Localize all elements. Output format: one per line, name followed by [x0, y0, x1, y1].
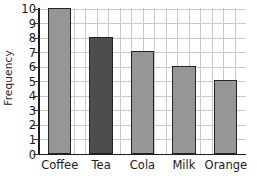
y-axis-tick-mark	[33, 38, 39, 39]
bar	[172, 66, 196, 154]
x-axis-tick-label: Coffee	[39, 157, 80, 173]
y-axis-tick-mark	[33, 9, 39, 10]
bar	[131, 51, 155, 154]
bar	[89, 37, 113, 154]
bars-layer	[39, 8, 246, 154]
x-axis-line	[38, 154, 246, 156]
plot-area	[39, 8, 246, 154]
x-axis-tick-labels: CoffeeTeaColaMilkOrange	[39, 157, 246, 177]
y-axis-tick-mark	[33, 125, 39, 126]
bar-fill	[49, 9, 71, 154]
x-axis-tick-label: Milk	[163, 157, 204, 173]
y-axis-tick-mark	[33, 154, 39, 155]
bar	[48, 8, 72, 154]
y-axis-tick-labels: 012345678910	[14, 12, 36, 154]
bar-fill	[215, 81, 237, 153]
y-axis-tick-mark	[33, 81, 39, 82]
bar-chart: Frequency 012345678910 CoffeeTeaColaMilk…	[0, 0, 257, 181]
bar-fill	[173, 67, 195, 153]
x-axis-tick-label: Cola	[122, 157, 163, 173]
y-axis-tick-mark	[33, 110, 39, 111]
y-axis-tick-mark	[33, 96, 39, 97]
bar-fill	[132, 52, 154, 153]
y-axis-tick-mark	[33, 67, 39, 68]
y-axis-title-text: Frequency	[2, 50, 14, 106]
y-axis-tick-mark	[33, 23, 39, 24]
y-axis-tick-mark	[33, 139, 39, 140]
x-axis-tick-label: Tea	[80, 157, 121, 173]
bar	[214, 80, 238, 154]
x-axis-tick-label: Orange	[205, 157, 246, 173]
bar-fill	[90, 38, 112, 153]
y-axis-tick-mark	[33, 52, 39, 53]
